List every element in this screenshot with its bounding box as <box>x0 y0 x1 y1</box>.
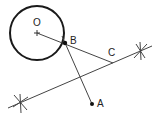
line-b-a <box>62 36 92 104</box>
label-o: O <box>33 18 41 28</box>
point-b <box>63 41 67 45</box>
label-b: B <box>70 36 77 46</box>
geometry-diagram: O B C A <box>0 0 162 117</box>
label-c: C <box>108 48 115 58</box>
star-mark-left <box>13 94 28 113</box>
label-a: A <box>97 99 104 109</box>
star-mark-right <box>134 42 147 60</box>
point-a <box>90 102 94 106</box>
diagram-svg <box>0 0 162 117</box>
